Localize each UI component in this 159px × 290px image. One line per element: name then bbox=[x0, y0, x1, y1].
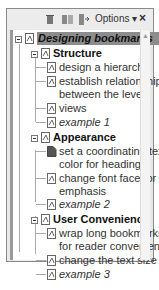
bookmark-icon bbox=[25, 33, 35, 44]
filled-bookmark-icon bbox=[47, 146, 57, 157]
delete-bookmark-icon[interactable] bbox=[45, 14, 55, 25]
tree-item-label: Structure bbox=[53, 47, 102, 60]
bookmark-icon bbox=[47, 255, 57, 266]
bookmark-icon bbox=[47, 228, 57, 239]
vertical-scrollbar[interactable]: ▲ bbox=[140, 30, 150, 260]
tree-line bbox=[35, 150, 36, 202]
bookmark-icon bbox=[41, 214, 51, 225]
tree-line bbox=[19, 44, 20, 252]
bookmark-icon bbox=[47, 173, 57, 184]
close-button[interactable]: × bbox=[139, 11, 146, 25]
tree-item-root[interactable]: Designing bookmarks bbox=[13, 32, 141, 46]
bookmark-icon bbox=[47, 103, 57, 114]
options-menu-button[interactable]: Options ▾ bbox=[95, 13, 137, 24]
tree-item-label: example 1 bbox=[59, 116, 110, 129]
bookmarks-panel: Options ▾ × Designing bookmarks Structur… bbox=[6, 8, 154, 262]
tree-item-label: User Convenience bbox=[53, 213, 149, 226]
bookmark-icon bbox=[47, 117, 57, 128]
bookmark-icon bbox=[41, 132, 51, 143]
tree-item-label: views bbox=[59, 102, 87, 115]
bookmark-icon bbox=[41, 48, 51, 59]
bookmarks-tree: Designing bookmarks Structure design a h… bbox=[10, 30, 150, 260]
collapse-icon[interactable] bbox=[31, 135, 38, 142]
collapse-icon[interactable] bbox=[15, 36, 22, 43]
expand-bookmark-icon[interactable] bbox=[79, 14, 89, 25]
bookmarks-toolbar: Options ▾ × bbox=[7, 9, 153, 29]
tree-item-label: emphasis bbox=[59, 185, 106, 198]
bookmark-icon bbox=[47, 199, 57, 210]
collapse-icon[interactable] bbox=[31, 217, 38, 224]
tree-item-label: example 3 bbox=[59, 268, 110, 281]
options-label: Options bbox=[95, 13, 129, 24]
chevron-down-icon: ▾ bbox=[132, 13, 137, 24]
bookmark-icon bbox=[47, 269, 57, 280]
bookmark-icon bbox=[47, 76, 57, 87]
tree-item-label: between the levels bbox=[59, 88, 150, 101]
tree-item-label: color for headings bbox=[59, 158, 146, 171]
tree-item-label: example 2 bbox=[59, 198, 110, 211]
scroll-up-icon[interactable]: ▲ bbox=[142, 32, 149, 39]
collapse-icon[interactable] bbox=[31, 51, 38, 58]
tree-item-label: Appearance bbox=[53, 131, 116, 144]
new-bookmark-icon[interactable] bbox=[62, 14, 72, 25]
tree-item-label: design a hierarchy bbox=[59, 61, 149, 74]
bookmark-icon bbox=[47, 62, 57, 73]
